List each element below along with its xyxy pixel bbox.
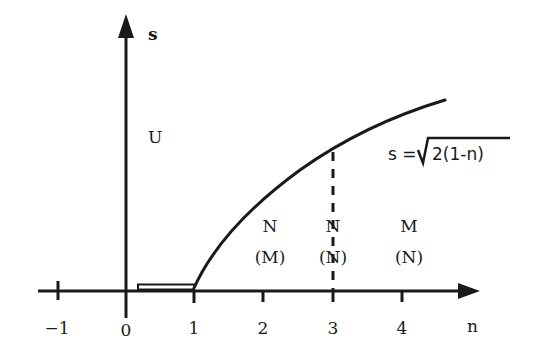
region-b-label-bottom: (N) xyxy=(319,247,347,267)
n-axis-arrow-icon xyxy=(458,283,480,299)
region-c-label-top: M xyxy=(400,216,417,236)
marked-segment xyxy=(138,285,194,290)
region-a-label-top: N xyxy=(263,216,278,236)
tick-label-4: 4 xyxy=(397,318,408,338)
s-axis-label: s xyxy=(148,24,158,44)
s-axis xyxy=(118,14,134,318)
curve-formula: s = 2(1-n) xyxy=(388,138,510,164)
tick-label-minus-1: −1 xyxy=(44,318,69,338)
s-axis-arrow-icon xyxy=(118,14,134,38)
n-axis-label: n xyxy=(467,316,478,336)
region-b-label-top: N xyxy=(326,216,341,236)
phase-diagram: −1 0 1 2 3 4 s n s = 2(1-n) U N (M) N (N… xyxy=(0,0,537,358)
x-tick-labels: −1 0 1 2 3 4 xyxy=(44,318,407,340)
n-axis xyxy=(38,283,480,299)
tick-label-2: 2 xyxy=(258,318,269,338)
region-a-label-bottom: (M) xyxy=(255,247,286,267)
region-c-label-bottom: (N) xyxy=(395,247,423,267)
tick-label-3: 3 xyxy=(328,318,339,338)
formula-radicand: 2(1-n) xyxy=(432,144,484,164)
tick-label-0: 0 xyxy=(121,320,132,340)
formula-lhs: s = xyxy=(388,144,417,164)
region-label-u: U xyxy=(148,127,162,147)
tick-label-1: 1 xyxy=(189,318,200,338)
